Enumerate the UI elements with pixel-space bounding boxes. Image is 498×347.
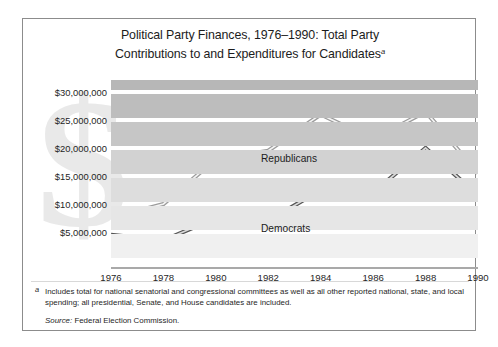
page-title: Political Party Finances, 1976–1990: Tot… xyxy=(23,28,477,62)
y-axis-tick-label: $5,000,000 xyxy=(23,227,107,238)
grid-band xyxy=(111,178,478,202)
x-axis-tick-label: 1990 xyxy=(467,272,488,283)
source-line: Source: Federal Election Commission. xyxy=(33,316,467,325)
chart-title-line-1: Political Party Finances, 1976–1990: Tot… xyxy=(121,28,379,42)
footnote-marker: a xyxy=(35,285,39,296)
source-value: Federal Election Commission. xyxy=(74,316,179,325)
figure-frame: $ Political Party Finances, 1976–1990: T… xyxy=(22,18,476,331)
footnote-body: Includes total for national senatorial a… xyxy=(45,287,464,307)
footnote-divider xyxy=(31,281,469,282)
grid-band xyxy=(111,94,478,118)
chart-title-footnote-marker: a xyxy=(381,47,385,56)
y-axis-tick-label: $25,000,000 xyxy=(23,115,107,126)
y-axis-tick-label: $10,000,000 xyxy=(23,199,107,210)
x-axis-line xyxy=(111,267,478,269)
y-axis-tick-label: $30,000,000 xyxy=(23,87,107,98)
series-label-democrats: Democrats xyxy=(261,223,310,234)
chart-title-line-2: Contributions to and Expenditures for Ca… xyxy=(115,47,381,61)
series-label-republicans: Republicans xyxy=(261,153,317,164)
grid-band xyxy=(111,234,478,258)
y-axis-tick-label: $15,000,000 xyxy=(23,171,107,182)
x-axis-labels: 19761978198019821984198619881990 xyxy=(111,272,478,288)
source-label: Source: xyxy=(45,316,72,325)
footnote-text: aIncludes total for national senatorial … xyxy=(33,287,467,308)
footnote-block: aIncludes total for national senatorial … xyxy=(33,287,467,325)
y-axis-tick-label: $20,000,000 xyxy=(23,143,107,154)
grid-band xyxy=(111,80,478,90)
grid-band xyxy=(111,122,478,146)
